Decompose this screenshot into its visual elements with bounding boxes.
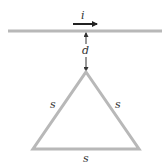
distance-label: d xyxy=(82,44,89,57)
side-label-right: s xyxy=(115,98,121,111)
current-label: i xyxy=(81,9,85,22)
triangle-loop xyxy=(33,72,139,149)
side-label-left: s xyxy=(50,98,56,111)
wire-triangle-diagram: i d s s s xyxy=(0,0,168,166)
side-label-bottom: s xyxy=(83,152,89,165)
